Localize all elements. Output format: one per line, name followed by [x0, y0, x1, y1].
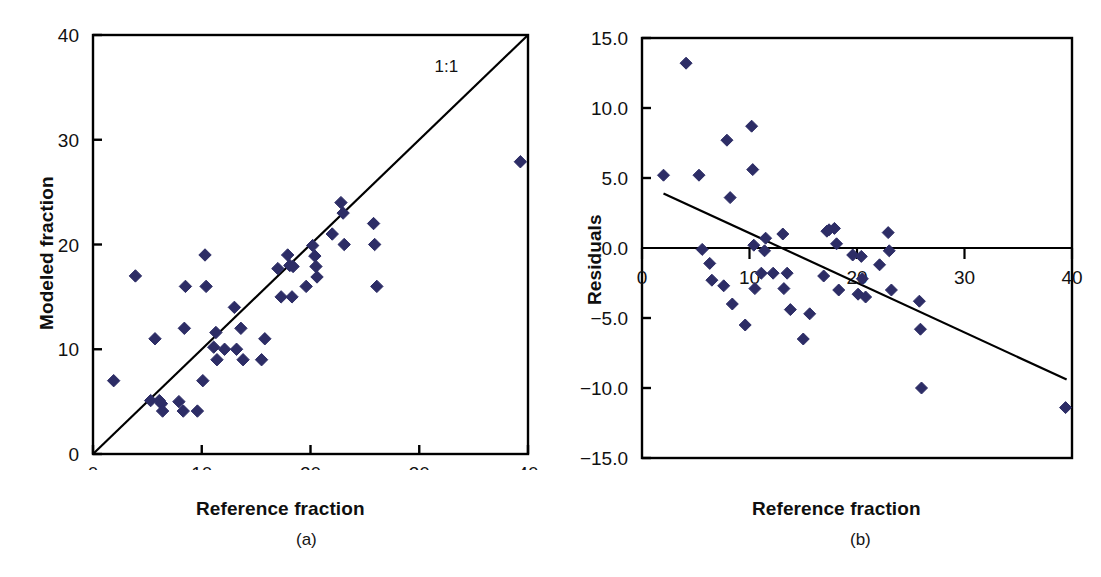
data-point-marker: [149, 333, 161, 345]
data-point-marker: [767, 267, 779, 279]
data-point-marker: [179, 280, 191, 292]
data-point-marker: [885, 284, 897, 296]
scatter-plot-a: 0102030400102030401:1: [0, 0, 560, 470]
data-point-marker: [747, 164, 759, 176]
data-point-marker: [784, 304, 796, 316]
data-point-marker: [797, 333, 809, 345]
data-point-marker: [306, 239, 318, 251]
y-tick-label-b: −10.0: [580, 378, 628, 399]
x-tick-label-a: 0: [88, 463, 99, 470]
data-point-marker: [281, 249, 293, 261]
data-point-marker: [237, 354, 249, 366]
subcaption-b: (b): [850, 530, 871, 550]
y-tick-label-a: 20: [58, 235, 79, 256]
data-point-marker: [310, 260, 322, 272]
x-tick-label-a: 30: [409, 463, 430, 470]
x-tick-label-a: 40: [517, 463, 538, 470]
data-point-marker: [286, 291, 298, 303]
data-point-marker: [658, 169, 670, 181]
data-point-marker: [680, 57, 692, 69]
data-point-marker: [235, 322, 247, 334]
data-point-marker: [218, 343, 230, 355]
data-point-marker: [696, 243, 708, 255]
data-point-marker: [326, 228, 338, 240]
panel-b: −15.0−10.0−5.00.05.010.015.0010203040 Re…: [560, 0, 1101, 577]
y-tick-label-a: 10: [58, 339, 79, 360]
y-tick-label-b: −5.0: [590, 308, 628, 329]
data-point-marker: [818, 270, 830, 282]
data-point-marker: [704, 257, 716, 269]
y-tick-label-a: 0: [68, 444, 79, 465]
data-point-marker: [338, 238, 350, 250]
data-point-marker: [371, 280, 383, 292]
data-point-marker: [883, 245, 895, 257]
data-point-marker: [210, 326, 222, 338]
x-tick-label-b: 40: [1061, 267, 1082, 288]
data-point-marker: [739, 319, 751, 331]
data-point-marker: [781, 267, 793, 279]
scatter-plot-b: −15.0−10.0−5.00.05.010.015.0010203040: [560, 0, 1101, 470]
y-tick-label-a: 30: [58, 130, 79, 151]
y-tick-label-b: −15.0: [580, 448, 628, 469]
y-tick-label-b: 15.0: [591, 28, 628, 49]
data-point-marker: [693, 169, 705, 181]
y-tick-label-a: 40: [58, 25, 79, 46]
data-point-marker: [746, 120, 758, 132]
data-point-marker: [129, 270, 141, 282]
y-tick-label-b: 5.0: [602, 168, 628, 189]
x-axis-title-a: Reference fraction: [196, 498, 365, 520]
data-point-marker: [777, 228, 789, 240]
x-axis-title-b: Reference fraction: [752, 498, 921, 520]
data-point-marker: [300, 280, 312, 292]
data-point-marker: [514, 156, 526, 168]
x-tick-label-a: 20: [300, 463, 321, 470]
data-point-marker: [311, 271, 323, 283]
data-point-marker: [230, 343, 242, 355]
x-tick-label-a: 10: [191, 463, 212, 470]
y-axis-title-a: Modeled fraction: [36, 176, 58, 330]
data-point-marker: [191, 405, 203, 417]
data-point-marker: [228, 301, 240, 313]
subcaption-a: (a): [296, 530, 317, 550]
data-point-marker: [914, 323, 926, 335]
data-point-marker: [368, 238, 380, 250]
data-point-marker: [335, 196, 347, 208]
data-point-marker: [107, 374, 119, 386]
data-point-marker: [309, 250, 321, 262]
data-point-marker: [255, 354, 267, 366]
data-point-marker: [874, 259, 886, 271]
y-axis-title-b: Residuals: [584, 214, 606, 305]
figure-container: 0102030400102030401:1 Modeled fraction R…: [0, 0, 1101, 577]
data-point-marker: [759, 245, 771, 257]
data-point-marker: [197, 374, 209, 386]
data-point-marker: [706, 274, 718, 286]
data-point-marker: [833, 284, 845, 296]
data-point-marker: [718, 280, 730, 292]
data-point-marker: [724, 192, 736, 204]
data-point-marker: [178, 322, 190, 334]
data-point-marker: [211, 354, 223, 366]
data-point-marker: [1060, 402, 1072, 414]
data-point-marker: [804, 308, 816, 320]
data-point-marker: [913, 295, 925, 307]
data-point-marker: [916, 382, 928, 394]
x-tick-label-b: 0: [637, 267, 648, 288]
data-point-marker: [721, 134, 733, 146]
panel-a: 0102030400102030401:1 Modeled fraction R…: [0, 0, 560, 577]
data-point-marker: [199, 249, 211, 261]
data-point-marker: [778, 283, 790, 295]
data-point-marker: [882, 227, 894, 239]
y-tick-label-b: 10.0: [591, 98, 628, 119]
data-point-marker: [259, 333, 271, 345]
data-point-marker: [367, 217, 379, 229]
x-tick-label-b: 30: [954, 267, 975, 288]
annotation-one-to-one: 1:1: [435, 57, 459, 76]
data-point-marker: [200, 280, 212, 292]
data-point-marker: [726, 298, 738, 310]
